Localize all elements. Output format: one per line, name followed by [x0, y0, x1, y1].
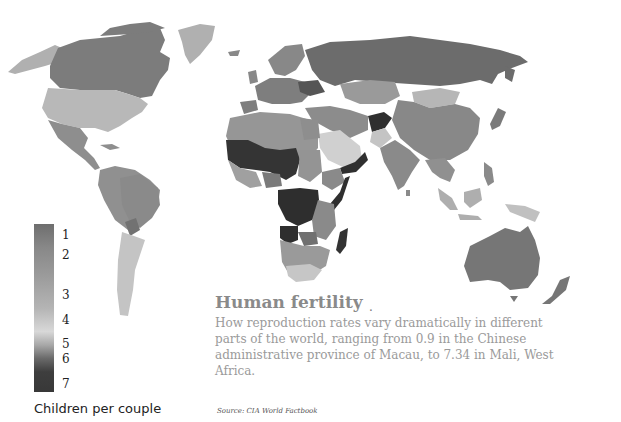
region-papua-new-guinea — [505, 204, 540, 222]
region-iberia — [240, 100, 258, 114]
map-title: Human fertility — [215, 292, 363, 312]
source-credit: Source: CIA World Factbook — [217, 407, 318, 415]
region-madagascar — [336, 228, 348, 254]
region-indochina — [425, 158, 455, 182]
region-philippines — [484, 162, 494, 186]
region-java — [458, 214, 482, 220]
region-russia — [305, 36, 528, 86]
region-kazakhstan — [340, 80, 400, 104]
region-scandinavia — [268, 44, 305, 76]
region-greenland — [178, 24, 215, 64]
region-sumatra — [438, 188, 458, 210]
region-borneo — [464, 188, 482, 208]
region-canada — [50, 28, 170, 98]
legend-color-scale — [34, 224, 54, 392]
region-caribbean — [100, 144, 120, 150]
region-tasmania — [510, 296, 518, 302]
region-nigeria — [262, 172, 282, 188]
map-description: How reproduction rates vary dramatically… — [215, 315, 555, 379]
region-argentina — [117, 232, 145, 316]
legend-tick-3: 3 — [62, 288, 70, 302]
region-japan — [490, 108, 506, 130]
legend-tick-1: 1 — [62, 228, 70, 242]
legend-tick-2: 2 — [62, 248, 70, 262]
legend-tick-7: 7 — [62, 377, 70, 391]
region-iceland — [228, 50, 240, 56]
title-marker: . — [369, 300, 373, 314]
region-australia — [464, 226, 540, 290]
legend-tick-6: 6 — [62, 352, 70, 366]
region-kamchatka — [505, 66, 515, 82]
region-afghanistan — [368, 112, 392, 132]
region-new-zealand — [542, 276, 570, 304]
region-sudan — [298, 150, 322, 182]
legend-tick-4: 4 — [62, 313, 70, 327]
region-uk — [248, 70, 258, 84]
legend-caption: Children per couple — [34, 401, 161, 416]
legend-tick-5: 5 — [62, 337, 70, 351]
region-zambia — [298, 232, 318, 246]
region-sri-lanka — [406, 190, 410, 196]
